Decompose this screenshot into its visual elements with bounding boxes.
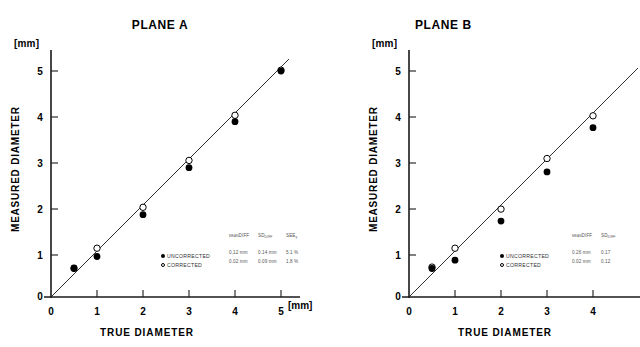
plane-a-legend-row-corrected: CORRECTED [158,260,210,269]
plane-a-stats-header-meandiff: MEANDIFF [229,233,258,238]
plane-a-legend: UNCORRECTED CORRECTED [158,251,210,269]
plane-a-stats-header-sddiff: SDDIFF [258,233,286,238]
plane-a-stats-row-uncorrected: 0.12 mm0.14 mm5.1 % [229,250,298,255]
plane-b-plot-area [320,0,640,347]
plane-a-legend-row-uncorrected: UNCORRECTED [158,251,210,260]
filled-circle-icon [497,253,506,259]
plane-a-stat-meandiff-corrected: 0.02 mm [229,259,258,264]
plane-b-legend-row-corrected: CORRECTED [497,260,549,269]
plane-a-point-uncorrected [232,118,239,125]
plane-b-point-uncorrected [498,218,505,225]
plane-b-stats-table: MEANDIFFSDDIFF 0.26 mm0.17 0.02 mm0.12 [572,233,616,264]
plane-b-stats-header-row: MEANDIFFSDDIFF [572,233,616,238]
plane-a-point-corrected [232,112,238,118]
plane-a-stat-sddiff-uncorrected: 0.14 mm [258,250,286,255]
plane-b-legend-label-corrected: CORRECTED [506,262,541,268]
plane-b-stats-header-meandiff: MEANDIFF [572,233,601,238]
plane-b-panel: PLANE B [mm] MEASURED DIAMETER TRUE DIAM… [320,0,640,347]
plane-a-point-corrected [94,245,100,251]
plane-a-point-corrected [140,204,146,210]
plane-b-point-corrected [498,206,504,212]
filled-circle-icon [158,253,167,259]
plane-a-stat-see-uncorrected: 5.1 % [286,250,298,255]
plane-b-stat-meandiff-corrected: 0.02 mm [572,259,601,264]
plane-a-point-uncorrected [278,68,285,75]
plane-b-stats-header-sddiff: SDDIFF [601,233,616,238]
plane-a-stat-see-corrected: 1.8 % [286,259,298,264]
plane-b-point-uncorrected [452,257,459,264]
plane-b-stats-row-corrected: 0.02 mm0.12 [572,259,616,264]
plane-a-plot-area [0,0,320,347]
plane-a-stats-header-row: MEANDIFFSDDIFFSEEy [229,233,298,238]
plane-b-point-corrected [544,155,550,161]
plane-a-legend-label-uncorrected: UNCORRECTED [167,253,210,259]
plane-a-point-uncorrected [186,164,193,171]
plane-b-point-corrected [452,245,458,251]
plane-a-legend-label-corrected: CORRECTED [167,262,202,268]
plane-b-stat-sddiff-uncorrected: 0.17 [601,250,610,255]
plane-a-stats-table: MEANDIFFSDDIFFSEEy 0.12 mm0.14 mm5.1 % 0… [229,233,298,264]
plane-a-stats-row-corrected: 0.02 mm0.09 mm1.8 % [229,259,298,264]
plane-b-stat-meandiff-uncorrected: 0.26 mm [572,250,601,255]
plane-b-legend-row-uncorrected: UNCORRECTED [497,251,549,260]
plane-a-stat-meandiff-uncorrected: 0.12 mm [229,250,258,255]
plane-b-point-uncorrected [590,124,597,131]
open-circle-icon [158,262,167,268]
plane-a-point-uncorrected [71,265,78,272]
plane-b-stats-row-uncorrected: 0.26 mm0.17 [572,250,616,255]
plane-a-stats-header-see: SEEy [286,233,297,238]
plane-b-point-uncorrected [544,169,551,176]
plane-b-legend: UNCORRECTED CORRECTED [497,251,549,269]
plane-a-point-corrected [186,157,192,163]
plane-b-point-corrected [590,113,596,119]
plane-a-point-uncorrected [94,253,101,260]
plane-a-stat-sddiff-corrected: 0.09 mm [258,259,286,264]
plane-a-panel: PLANE A [mm] MEASURED DIAMETER TRUE DIAM… [0,0,320,347]
plane-a-point-uncorrected [140,211,147,218]
plane-b-legend-label-uncorrected: UNCORRECTED [506,253,549,259]
plane-b-stat-sddiff-corrected: 0.12 [601,259,610,264]
plane-b-point-uncorrected [429,265,436,272]
open-circle-icon [497,262,506,268]
